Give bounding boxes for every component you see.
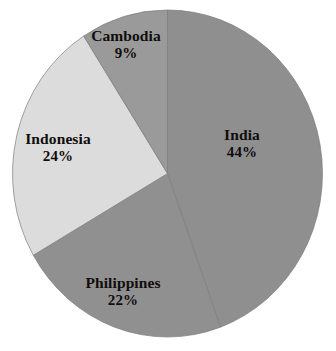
pie-label-india-name: India xyxy=(196,126,288,144)
pie-label-cambodia-name: Cambodia xyxy=(72,27,180,45)
pie-label-cambodia-value: 9% xyxy=(72,45,180,62)
pie-label-philippines-name: Philippines xyxy=(56,274,190,292)
pie-chart: India 44% Indonesia 24% Philippines 22% … xyxy=(0,0,336,351)
pie-label-india-value: 44% xyxy=(196,144,288,161)
pie-label-indonesia-value: 24% xyxy=(2,148,114,165)
pie-label-cambodia: Cambodia 9% xyxy=(72,27,180,62)
pie-label-philippines: Philippines 22% xyxy=(56,274,190,309)
pie-label-indonesia-name: Indonesia xyxy=(2,130,114,148)
pie-label-philippines-value: 22% xyxy=(56,292,190,309)
pie-label-india: India 44% xyxy=(196,126,288,161)
pie-label-indonesia: Indonesia 24% xyxy=(2,130,114,165)
